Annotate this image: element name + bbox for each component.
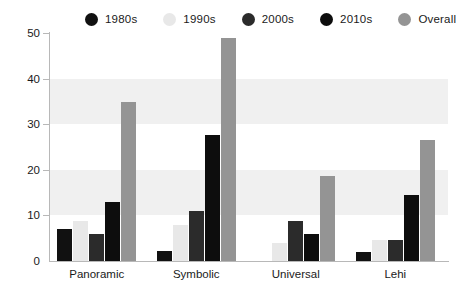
y-tick-label: 0 bbox=[0, 255, 40, 267]
legend-item-label: 1990s bbox=[183, 14, 215, 26]
bar-universal-2000s[interactable] bbox=[288, 221, 303, 261]
bar-chart: 1980s1990s2000s2010sOverall 01020304050 … bbox=[0, 0, 459, 298]
bar-universal-overall[interactable] bbox=[320, 176, 335, 261]
legend-item-2000s[interactable]: 2000s bbox=[242, 13, 294, 26]
y-tick-label: 20 bbox=[0, 164, 40, 176]
bar-universal-1990s[interactable] bbox=[272, 243, 287, 261]
legend-item-overall[interactable]: Overall bbox=[398, 13, 456, 26]
legend-item-label: Overall bbox=[418, 14, 456, 26]
y-tick-mark bbox=[43, 124, 50, 125]
legend-item-1990s[interactable]: 1990s bbox=[163, 13, 215, 26]
x-tick-label-panoramic: Panoramic bbox=[69, 268, 124, 280]
y-tick-mark bbox=[43, 215, 50, 216]
bar-lehi-2000s[interactable] bbox=[388, 240, 403, 261]
plot-area bbox=[50, 33, 448, 261]
bar-panoramic-1980s[interactable] bbox=[57, 229, 72, 261]
legend-item-label: 2000s bbox=[262, 14, 294, 26]
bar-symbolic-2000s[interactable] bbox=[189, 211, 204, 261]
legend-swatch-icon bbox=[85, 13, 98, 26]
shaded-band-1 bbox=[50, 79, 448, 125]
bar-panoramic-1990s[interactable] bbox=[73, 221, 88, 261]
y-tick-mark bbox=[43, 33, 50, 34]
y-axis-labels: 01020304050 bbox=[0, 0, 40, 298]
y-axis-line bbox=[49, 32, 50, 262]
y-tick-label: 50 bbox=[0, 27, 40, 39]
y-tick-label: 30 bbox=[0, 118, 40, 130]
x-tick-label-universal: Universal bbox=[272, 268, 320, 280]
legend-item-label: 1980s bbox=[105, 14, 137, 26]
bar-lehi-1980s[interactable] bbox=[356, 252, 371, 261]
bar-panoramic-overall[interactable] bbox=[121, 102, 136, 261]
y-tick-mark bbox=[43, 170, 50, 171]
bar-panoramic-2010s[interactable] bbox=[105, 202, 120, 261]
bar-lehi-1990s[interactable] bbox=[372, 240, 387, 261]
bar-lehi-overall[interactable] bbox=[420, 140, 435, 261]
legend-swatch-icon bbox=[242, 13, 255, 26]
bar-universal-2010s[interactable] bbox=[304, 234, 319, 261]
bar-symbolic-1990s[interactable] bbox=[173, 225, 188, 261]
bar-symbolic-1980s[interactable] bbox=[157, 251, 172, 261]
bar-symbolic-overall[interactable] bbox=[221, 38, 236, 261]
chart-legend: 1980s1990s2000s2010sOverall bbox=[85, 13, 456, 26]
x-axis-line bbox=[49, 261, 449, 262]
legend-swatch-icon bbox=[320, 13, 333, 26]
y-tick-mark bbox=[43, 79, 50, 80]
legend-item-1980s[interactable]: 1980s bbox=[85, 13, 137, 26]
x-tick-label-symbolic: Symbolic bbox=[173, 268, 220, 280]
bar-panoramic-2000s[interactable] bbox=[89, 234, 104, 261]
bar-lehi-2010s[interactable] bbox=[404, 195, 419, 261]
bar-symbolic-2010s[interactable] bbox=[205, 135, 220, 261]
legend-item-2010s[interactable]: 2010s bbox=[320, 13, 372, 26]
x-tick-label-lehi: Lehi bbox=[384, 268, 406, 280]
x-axis-labels: PanoramicSymbolicUniversalLehi bbox=[0, 268, 459, 292]
y-tick-label: 10 bbox=[0, 209, 40, 221]
legend-item-label: 2010s bbox=[340, 14, 372, 26]
legend-swatch-icon bbox=[163, 13, 176, 26]
legend-swatch-icon bbox=[398, 13, 411, 26]
y-tick-label: 40 bbox=[0, 73, 40, 85]
